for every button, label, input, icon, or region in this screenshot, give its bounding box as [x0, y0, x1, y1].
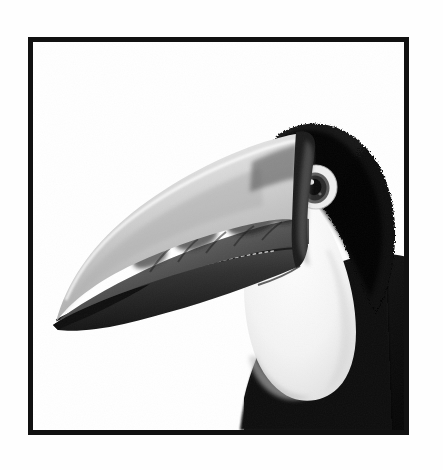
photo-frame — [28, 37, 409, 435]
page-root: toucan — [0, 0, 443, 470]
